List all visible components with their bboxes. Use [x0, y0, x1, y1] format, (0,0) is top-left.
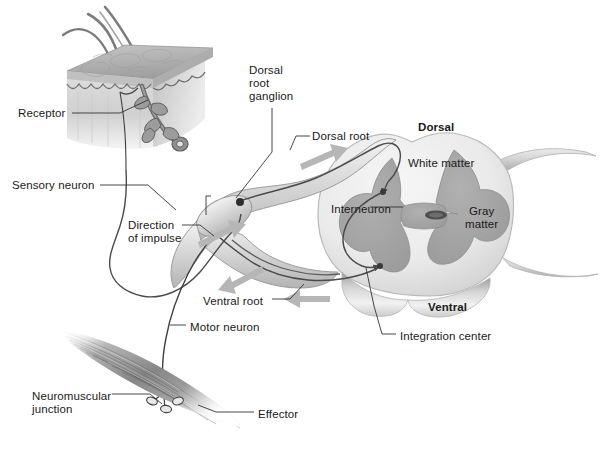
label-ventral: Ventral: [428, 301, 467, 314]
reflex-arc-figure: Receptor Sensory neuron Dorsal root gang…: [0, 0, 604, 464]
nmj-endplate-3: [160, 405, 172, 413]
label-integration-center: Integration center: [400, 330, 491, 343]
right-ventral-nerve: [503, 258, 598, 277]
label-dorsal-root-ganglion: Dorsal root ganglion: [249, 64, 293, 103]
spinal-nerve-trunk: [171, 222, 340, 288]
label-direction-of-impulse: Direction of impulse: [128, 219, 181, 245]
label-gray-matter: Gray matter: [465, 205, 498, 231]
leader-dorsal-root-ganglion: [236, 108, 272, 198]
label-ventral-root: Ventral root: [203, 295, 263, 308]
nmj-endplate-1: [146, 396, 159, 407]
label-interneuron: Interneuron: [331, 203, 391, 216]
label-dorsal-root: Dorsal root: [312, 130, 369, 143]
sensory-cell-body: [236, 198, 244, 206]
label-sensory-neuron: Sensory neuron: [12, 179, 95, 192]
label-white-matter: White matter: [408, 157, 474, 170]
label-motor-neuron: Motor neuron: [190, 321, 260, 334]
label-neuromuscular-junction: Neuromuscular junction: [32, 390, 111, 416]
label-dorsal: Dorsal: [418, 121, 454, 134]
arrow-ventral-in: [284, 290, 330, 308]
interneuron-cell-body: [380, 189, 386, 195]
label-receptor: Receptor: [18, 107, 65, 120]
label-effector: Effector: [258, 408, 298, 421]
right-dorsal-nerve: [500, 149, 596, 170]
ventral-root-sheath: [171, 222, 338, 288]
leader-dorsal-root: [290, 136, 310, 150]
skin-block: [63, 7, 213, 170]
central-canal-lumen: [429, 212, 443, 217]
leader-sensory-neuron: [100, 185, 176, 210]
